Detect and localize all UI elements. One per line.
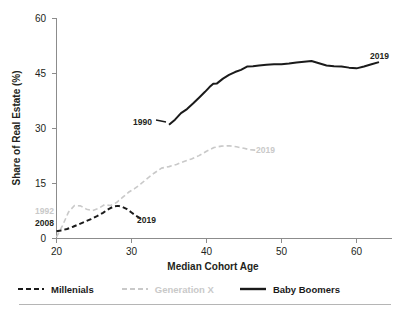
legend-item-generation-x[interactable]: Generation X: [122, 284, 214, 295]
x-axis-ticks: [57, 239, 357, 244]
legend-swatch-millenials-icon: [18, 284, 44, 294]
y-tick-label-60: 60: [35, 13, 47, 24]
annotation-millenials-start: 2008: [35, 218, 54, 228]
series-line-baby-boomers: [169, 61, 379, 125]
footer-divider: [19, 304, 391, 305]
legend-item-baby-boomers[interactable]: Baby Boomers: [240, 284, 340, 295]
x-tick-label-50: 50: [276, 246, 288, 257]
chart-figure: 60 45 30 15 0 20 30 40 50 60 Median Coho…: [0, 0, 409, 312]
legend-label-baby-boomers: Baby Boomers: [273, 284, 340, 295]
legend-swatch-generation-x-icon: [122, 284, 148, 294]
y-tick-label-0: 0: [40, 233, 46, 244]
annotation-millenials-end: 2019: [137, 215, 156, 225]
legend-item-millenials[interactable]: Millenials: [18, 284, 94, 295]
y-tick-label-45: 45: [35, 68, 47, 79]
annotation-genx-start: 1992: [35, 206, 54, 216]
series-line-generation-x: [57, 146, 257, 237]
chart-legend: Millenials Generation X Baby Boomers: [18, 281, 393, 297]
boomers-start-leader: [156, 120, 166, 122]
x-tick-label-60: 60: [351, 246, 363, 257]
chart-plot-area: 60 45 30 15 0 20 30 40 50 60 Median Coho…: [0, 0, 409, 312]
legend-label-generation-x: Generation X: [155, 284, 214, 295]
legend-swatch-baby-boomers-icon: [240, 284, 266, 294]
x-tick-label-30: 30: [126, 246, 138, 257]
series-line-millenials: [57, 206, 141, 231]
x-tick-label-40: 40: [201, 246, 213, 257]
y-tick-label-15: 15: [35, 178, 47, 189]
legend-label-millenials: Millenials: [51, 284, 94, 295]
annotation-genx-end: 2019: [256, 145, 275, 155]
x-tick-label-20: 20: [51, 246, 63, 257]
annotation-boomers-end: 2019: [370, 51, 389, 61]
x-axis-title: Median Cohort Age: [167, 261, 259, 272]
annotation-boomers-start: 1990: [133, 117, 152, 127]
y-axis-title: Share of Real Estate (%): [11, 70, 22, 185]
y-tick-label-30: 30: [35, 123, 47, 134]
